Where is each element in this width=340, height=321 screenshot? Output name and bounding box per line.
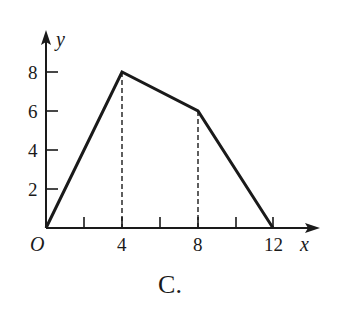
y-tick-label-4: 4 xyxy=(28,140,38,161)
x-tick-label-4: 4 xyxy=(117,234,127,255)
figure-caption: C. xyxy=(0,270,340,300)
data-line xyxy=(46,72,273,228)
y-tick-label-2: 2 xyxy=(28,179,38,200)
y-tick-label-8: 8 xyxy=(28,62,38,83)
x-ticks xyxy=(84,217,273,228)
origin-label: O xyxy=(30,233,44,255)
y-axis xyxy=(41,30,51,228)
x-axis xyxy=(46,223,320,233)
y-axis-label: y xyxy=(54,28,65,51)
x-tick-label-8: 8 xyxy=(193,234,203,255)
x-tick-label-12: 12 xyxy=(264,234,283,255)
y-ticks xyxy=(46,72,58,189)
y-tick-label-6: 6 xyxy=(28,101,38,122)
x-axis-label: x xyxy=(299,233,309,255)
dashed-guides xyxy=(122,72,198,228)
